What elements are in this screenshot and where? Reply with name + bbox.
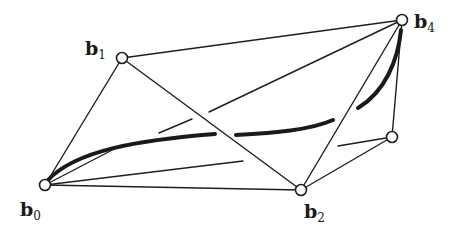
label-b1: b1	[85, 37, 106, 62]
edge-b1-b4	[122, 20, 402, 58]
bezier-control-polygon-diagram: b0 b1 b2 b4	[0, 0, 463, 235]
label-b4: b4	[414, 10, 435, 35]
hidden-edge-b0-b4-seg1	[159, 119, 192, 133]
label-b2: b2	[304, 200, 325, 225]
control-point-b4	[397, 15, 408, 26]
hidden-edge-b0-b3-seg0	[45, 161, 243, 185]
control-point-b3	[387, 132, 398, 143]
label-b0: b0	[20, 198, 41, 223]
edge-b0-b1	[45, 58, 122, 185]
control-point-b1	[117, 53, 128, 64]
control-point-b2	[296, 185, 307, 196]
control-point-b0	[40, 180, 51, 191]
edge-b0-b2	[45, 185, 301, 190]
control-point-labels: b0 b1 b2 b4	[20, 10, 435, 225]
bezier-curve-segment-1	[236, 120, 333, 135]
bezier-curve-segment-2	[358, 30, 401, 108]
edge-b1-b2	[122, 58, 301, 190]
edge-b2-b4	[301, 20, 402, 190]
